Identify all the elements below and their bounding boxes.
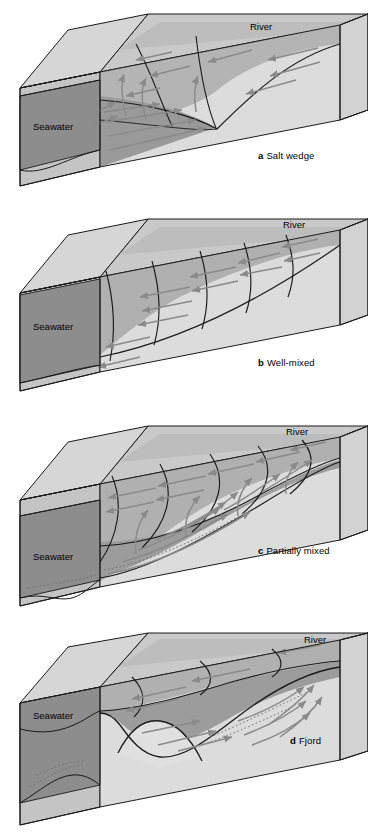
block-right-face — [340, 426, 368, 540]
river-label: River — [286, 426, 308, 437]
panel-partially-mixed: Seawater River cPartially mixed — [0, 412, 368, 624]
panel-caption-text-a: Salt wedge — [266, 150, 314, 161]
seawater-label: Seawater — [33, 551, 73, 562]
river-label: River — [283, 219, 305, 230]
panel-letter-c: c — [258, 545, 263, 556]
panel-caption-c: cPartially mixed — [258, 545, 330, 556]
panel-fjord: Seawater River dFjord — [0, 625, 368, 838]
panel-salt-wedge: Seawater River aSalt wedge — [0, 0, 368, 205]
river-label: River — [250, 21, 272, 32]
seawater-label: Seawater — [33, 710, 73, 721]
panel-caption-text-c: Partially mixed — [266, 545, 329, 556]
panel-letter-a: a — [258, 150, 263, 161]
estuary-types-figure: Seawater River aSalt wedge — [0, 0, 368, 838]
river-label: River — [304, 634, 326, 645]
panel-caption-text-d: Fjord — [299, 735, 321, 746]
block-right-face — [340, 14, 368, 120]
block-right-face — [340, 219, 368, 325]
panel-caption-b: bWell-mixed — [258, 357, 315, 368]
panel-caption-text-b: Well-mixed — [267, 357, 315, 368]
panel-caption-a: aSalt wedge — [258, 150, 314, 161]
seawater-label: Seawater — [33, 321, 73, 332]
panel-letter-d: d — [290, 735, 296, 746]
panel-well-mixed: Seawater River bWell-mixed — [0, 205, 368, 410]
panel-caption-d: dFjord — [290, 735, 321, 746]
panel-letter-b: b — [258, 357, 264, 368]
block-right-face — [340, 633, 368, 760]
seawater-label: Seawater — [33, 121, 73, 132]
seawater-region — [20, 687, 100, 803]
